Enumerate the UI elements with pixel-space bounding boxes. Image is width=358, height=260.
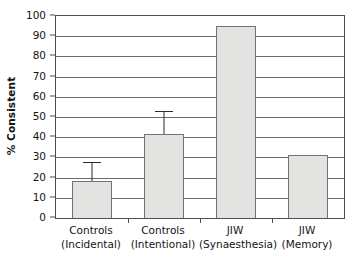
x-axis-category-label-line2: (Intentional) [127,238,199,252]
x-axis-category-label: Controls(Intentional) [127,224,199,251]
x-axis-category-label-line1: Controls [55,224,127,238]
gridline [56,77,344,78]
y-tick-label: 0 [39,212,46,223]
error-bar-stem [92,163,93,181]
x-axis-category-label-line2: (Memory) [271,238,343,252]
x-axis-separator-tick [200,218,201,223]
gridline [56,137,344,138]
y-tick-label: 100 [26,10,46,21]
x-axis-separator-tick [272,218,273,223]
plot-area [55,15,345,219]
y-tick-label: 10 [33,191,46,202]
gridline [56,36,344,37]
bar [216,26,256,218]
x-axis-category-label-line1: JIW [199,224,271,238]
y-tick-label: 60 [33,90,46,101]
y-tick-label: 40 [33,131,46,142]
y-tick-label: 70 [33,70,46,81]
error-bar-cap [155,111,173,112]
x-axis-category-label-line2: (Synaesthesia) [199,238,271,252]
y-tick-label: 20 [33,171,46,182]
gridline [56,56,344,57]
x-axis-separator-tick [128,218,129,223]
y-axis-tick-labels: 0102030405060708090100 [18,15,50,217]
error-bar [72,163,112,218]
gridline [56,97,344,98]
y-tick-label: 30 [33,151,46,162]
x-axis-category-label-line1: Controls [127,224,199,238]
bar-chart-figure: % Consistent 0102030405060708090100 Cont… [0,0,358,260]
x-axis-category-labels: Controls(Incidental)Controls(Intentional… [55,224,343,258]
error-bar [144,112,184,218]
error-bar-stem [164,112,165,134]
y-tick-label: 80 [33,50,46,61]
x-axis-category-label: JIW(Synaesthesia) [199,224,271,251]
y-tick-label: 50 [33,111,46,122]
y-tick-label: 90 [33,30,46,41]
y-axis-title-text: % Consistent [5,77,17,156]
x-axis-category-label-line1: JIW [271,224,343,238]
gridline [56,117,344,118]
x-axis-category-label: JIW(Memory) [271,224,343,251]
x-axis-category-label: Controls(Incidental) [55,224,127,251]
x-axis-category-label-line2: (Incidental) [55,238,127,252]
bar [288,155,328,218]
error-bar-cap [83,162,101,163]
